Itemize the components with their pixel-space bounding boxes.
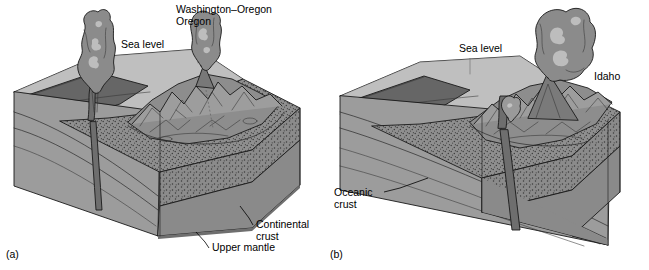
label-upper-mantle-a: Upper mantle: [212, 241, 275, 253]
diagram-canvas: Sea level Washington–Oregon Oregon Conti…: [0, 0, 649, 270]
label-volcano-region-b: Idaho: [594, 70, 620, 82]
label-volcano-region-a: Washington–Oregon: [176, 3, 272, 15]
figure-subduction-volcanism: Sea level Washington–Oregon Oregon Conti…: [0, 0, 649, 270]
panel-caption-a: (a): [6, 248, 19, 260]
label-sea-level-a: Sea level: [121, 38, 164, 50]
label-continental-crust-a-line1: Continental: [256, 218, 309, 230]
label-volcano-region-a-line2: Oregon: [176, 15, 211, 27]
panel-caption-b: (b): [330, 248, 343, 260]
label-oceanic-crust-b-line1: Oceanic: [334, 186, 373, 198]
label-sea-level-b: Sea level: [459, 42, 502, 54]
label-oceanic-crust-b-line2: crust: [334, 198, 357, 210]
